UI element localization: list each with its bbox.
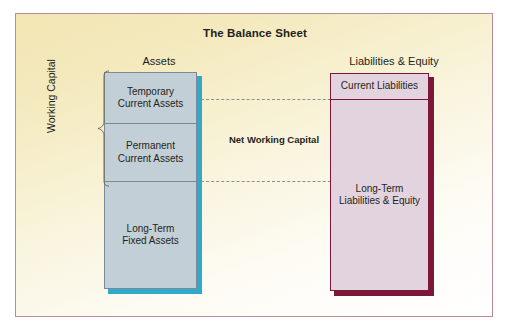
page-title: The Balance Sheet bbox=[16, 27, 494, 39]
net-working-capital-top-dashed-line bbox=[201, 99, 346, 100]
balance-sheet-diagram: The Balance Sheet Assets Temporary Curre… bbox=[0, 0, 509, 331]
segment-temporary-current-assets: Temporary Current Assets bbox=[105, 73, 196, 124]
assets-box: Temporary Current Assets Permanent Curre… bbox=[104, 72, 197, 289]
segment-permanent-current-assets: Permanent Current Assets bbox=[105, 124, 196, 182]
net-working-capital-bottom-dashed-line bbox=[201, 181, 346, 182]
segment-long-term-liabilities-equity: Long-Term Liabilities & Equity bbox=[331, 100, 428, 290]
liabilities-column-caption: Liabilities & Equity bbox=[329, 55, 459, 67]
diagram-panel: The Balance Sheet Assets Temporary Curre… bbox=[15, 13, 493, 317]
segment-label-line2: Liabilities & Equity bbox=[339, 195, 420, 206]
segment-current-liabilities: Current Liabilities bbox=[331, 74, 428, 100]
segment-label-line1: Permanent bbox=[126, 140, 175, 151]
working-capital-label: Working Capital bbox=[45, 38, 57, 154]
working-capital-brace-icon bbox=[96, 70, 110, 187]
segment-label-line1: Long-Term bbox=[356, 183, 404, 194]
segment-label-line2: Current Assets bbox=[118, 98, 184, 109]
net-working-capital-label: Net Working Capital bbox=[199, 134, 349, 145]
segment-long-term-fixed-assets: Long-Term Fixed Assets bbox=[105, 182, 196, 288]
segment-label-line2: Current Assets bbox=[118, 153, 184, 164]
segment-label-line1: Long-Term bbox=[127, 223, 175, 234]
segment-label-line2: Fixed Assets bbox=[122, 235, 179, 246]
segment-label-line1: Temporary bbox=[127, 86, 174, 97]
assets-column-caption: Assets bbox=[104, 55, 214, 67]
segment-label-line1: Current Liabilities bbox=[341, 80, 418, 91]
liabilities-box: Current Liabilities Long-Term Liabilitie… bbox=[330, 73, 429, 291]
